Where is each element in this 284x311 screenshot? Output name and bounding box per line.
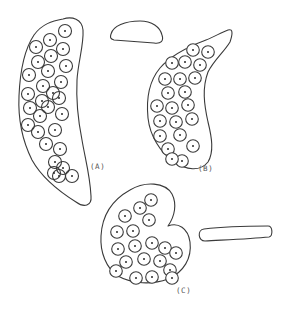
cell-nucleus	[115, 270, 117, 272]
panel-label-c: (C)	[176, 286, 191, 295]
cell-packing-diagram: (A) (B) (C)	[0, 0, 284, 311]
cell-nucleus	[60, 81, 62, 83]
cell-nucleus	[39, 115, 41, 117]
cell-nucleus	[179, 78, 181, 80]
cell-nucleus	[187, 104, 189, 106]
cell-nucleus	[45, 143, 47, 145]
cell-nucleus	[167, 92, 169, 94]
cell-nucleus	[159, 260, 161, 262]
panel-c: (C)	[101, 184, 191, 295]
cell-nucleus	[175, 252, 177, 254]
cell-nucleus	[184, 61, 186, 63]
cell-nucleus	[27, 93, 29, 95]
cell-nucleus	[164, 247, 166, 249]
cell-nucleus	[181, 160, 183, 162]
panel-b: (B)	[148, 30, 233, 173]
cell-nucleus	[53, 172, 55, 174]
cell-nucleus	[61, 113, 63, 115]
cell-nucleus	[64, 30, 66, 32]
cell-nucleus	[175, 121, 177, 123]
cell-nucleus	[151, 276, 153, 278]
cell-nucleus	[159, 120, 161, 122]
panel-a: (A)	[19, 18, 106, 205]
cell-nucleus	[151, 242, 153, 244]
cell-nucleus	[135, 277, 137, 279]
small-dome-shape	[110, 21, 162, 43]
cell-nucleus	[171, 277, 173, 279]
cell-nucleus	[207, 51, 209, 53]
panel-label-a: (A)	[90, 162, 105, 171]
cell-nucleus	[191, 118, 193, 120]
cell-nucleus	[117, 248, 119, 250]
cell-nucleus	[171, 107, 173, 109]
cell-nucleus	[184, 91, 186, 93]
cell-nucleus	[42, 85, 44, 87]
flat-rod-shape	[199, 226, 272, 241]
cell-nucleus	[134, 245, 136, 247]
cell-nucleus	[125, 261, 127, 263]
cell-nucleus	[62, 167, 64, 169]
cell-nucleus	[28, 74, 30, 76]
cell-nucleus	[37, 131, 39, 133]
cell-nucleus	[199, 64, 201, 66]
cell-nucleus	[192, 145, 194, 147]
cell-nucleus	[143, 258, 145, 260]
cell-nucleus	[116, 231, 118, 233]
cell-nucleus	[171, 158, 173, 160]
cell-nucleus	[169, 269, 171, 271]
cell-nucleus	[29, 107, 31, 109]
cell-nucleus	[171, 62, 173, 64]
cell-nucleus	[41, 100, 43, 102]
cell-nucleus	[37, 61, 39, 63]
cells-a	[22, 25, 79, 183]
cell-nucleus	[150, 199, 152, 201]
cell-nucleus	[124, 215, 126, 217]
cell-nucleus	[164, 78, 166, 80]
cell-nucleus	[65, 65, 67, 67]
cell-nucleus	[71, 175, 73, 177]
cell-nucleus	[49, 39, 51, 41]
cell-nucleus	[192, 49, 194, 51]
cell-nucleus	[47, 70, 49, 72]
panel-label-b: (B)	[198, 164, 213, 173]
cell-nucleus	[132, 230, 134, 232]
cell-nucleus	[167, 148, 169, 150]
cell-nucleus	[47, 106, 49, 108]
cell-nucleus	[156, 105, 158, 107]
cell-nucleus	[35, 46, 37, 48]
cell-nucleus	[194, 77, 196, 79]
cell-nucleus	[50, 55, 52, 57]
cell-nucleus	[159, 135, 161, 137]
cell-nucleus	[139, 207, 141, 209]
cell-nucleus	[62, 48, 64, 50]
cell-nucleus	[54, 161, 56, 163]
cell-nucleus	[54, 129, 56, 131]
cell-nucleus	[59, 148, 61, 150]
cell-nucleus	[58, 97, 60, 99]
cells-c	[110, 194, 183, 285]
cell-nucleus	[27, 124, 29, 126]
cell-nucleus	[179, 134, 181, 136]
cell-nucleus	[148, 219, 150, 221]
